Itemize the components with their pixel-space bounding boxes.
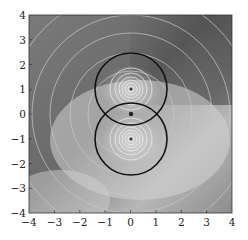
svg-text:−2: −2 xyxy=(11,158,26,170)
svg-text:4: 4 xyxy=(19,9,26,21)
x-tick-labels: −4 −3 −2 −1 0 1 2 3 4 xyxy=(21,216,235,228)
chart: −4 −3 −2 −1 0 1 2 3 4 4 3 2 1 0 −1 −2 −3… xyxy=(0,0,248,240)
origin-marker xyxy=(129,112,133,116)
svg-text:2: 2 xyxy=(178,216,185,228)
svg-text:−1: −1 xyxy=(11,133,26,145)
svg-text:0: 0 xyxy=(127,216,134,228)
svg-text:0: 0 xyxy=(19,108,26,120)
svg-text:1: 1 xyxy=(153,216,160,228)
svg-text:3: 3 xyxy=(203,216,210,228)
svg-text:−2: −2 xyxy=(72,216,87,228)
svg-text:−1: −1 xyxy=(97,216,112,228)
svg-text:3: 3 xyxy=(19,34,26,46)
svg-text:2: 2 xyxy=(19,59,26,71)
svg-text:−3: −3 xyxy=(47,216,62,228)
svg-text:1: 1 xyxy=(19,83,26,95)
plot-area xyxy=(9,0,248,236)
svg-text:−3: −3 xyxy=(11,182,26,194)
y-tick-labels: 4 3 2 1 0 −1 −2 −3 −4 xyxy=(11,9,27,219)
svg-text:4: 4 xyxy=(229,216,236,228)
svg-text:−4: −4 xyxy=(11,207,27,219)
